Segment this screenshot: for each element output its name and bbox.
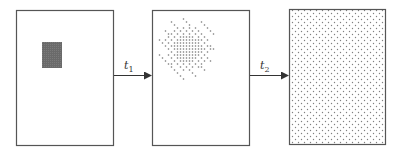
stage-intermediate xyxy=(153,11,250,146)
transition-t2: t2 xyxy=(250,59,288,76)
stage-final xyxy=(290,10,386,145)
label-t2: t2 xyxy=(260,59,270,74)
label-t1: t1 xyxy=(124,59,134,74)
stage-initial xyxy=(17,11,114,146)
concentrated-block xyxy=(42,42,62,68)
transition-t1: t1 xyxy=(114,59,151,76)
diffusion-diagram: t1 t2 xyxy=(0,0,403,154)
stage-intermediate-frame xyxy=(153,11,250,146)
stage-initial-frame xyxy=(17,11,114,146)
stage-final-fill xyxy=(290,10,386,145)
